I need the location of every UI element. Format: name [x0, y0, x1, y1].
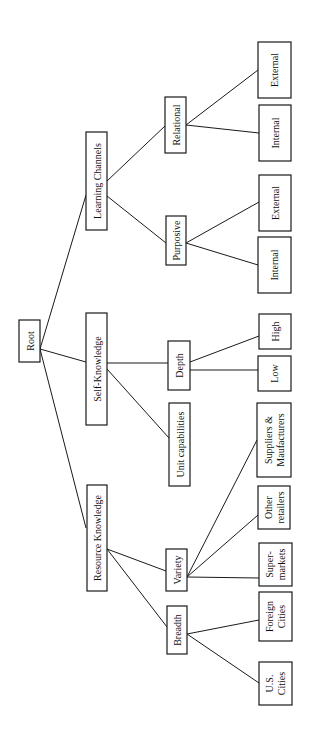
node-label: Internal	[269, 249, 280, 280]
edge-purposive-external	[186, 202, 259, 243]
node-label-line-2: markets	[276, 549, 287, 581]
edge-learning-channels-relational	[107, 126, 165, 181]
node-depth: Depth	[168, 341, 190, 390]
node-relational-external: External	[258, 42, 291, 98]
edge-root-learning-channels	[40, 195, 86, 349]
node-label: Low	[269, 364, 280, 383]
edge-depth-high	[190, 336, 259, 362]
edge-root-resource-knowledge	[40, 349, 86, 528]
node-other-retailers: Other retailers	[258, 486, 290, 529]
node-label: High	[270, 322, 281, 342]
node-learning-channels: Learning Channels	[86, 132, 107, 230]
edge-relational-external	[186, 70, 258, 125]
node-label-line-2: Cities	[276, 672, 287, 695]
node-label-line-1: U.S.	[264, 675, 275, 693]
node-supermarkets: Super- markets	[259, 543, 292, 586]
edge-breadth-us-cities	[187, 634, 259, 683]
edge-relational-internal	[186, 125, 259, 133]
edge-purposive-internal	[186, 243, 258, 265]
edge-variety-supermarkets	[187, 577, 259, 578]
node-self-knowledge: Self-Knowledge	[86, 313, 107, 425]
node-root: Root	[19, 320, 40, 362]
node-label-line-2: Maufacturers	[275, 413, 286, 466]
node-label-line-1: Foreign	[264, 601, 275, 632]
edge-self-knowledge-unit-capabilities	[107, 369, 169, 438]
node-us-cities: U.S. Cities	[259, 662, 292, 705]
node-label: Internal	[270, 117, 281, 148]
node-variety: Variety	[166, 549, 187, 591]
node-depth-low: Low	[258, 356, 291, 391]
node-label: External	[269, 53, 280, 87]
node-relational: Relational	[165, 97, 186, 153]
node-label-line-1: Suppliers &	[263, 416, 274, 464]
node-label-line-1: Other	[263, 495, 274, 518]
node-purposive-internal: Internal	[258, 237, 291, 293]
edge-variety-suppliers	[187, 440, 257, 577]
node-label-line-2: retailers	[275, 491, 286, 523]
node-label: Relational	[171, 104, 182, 145]
edge-variety-other-retailers	[187, 515, 258, 577]
node-label-line-2: Cities	[276, 605, 287, 628]
edges	[40, 70, 259, 683]
node-label: Breadth	[172, 614, 183, 646]
node-label: Resource Knowledge	[92, 495, 103, 581]
node-label: Self-Knowledge	[92, 336, 103, 402]
node-unit-capabilities: Unit capabilities	[169, 403, 190, 486]
node-breadth: Breadth	[167, 606, 187, 654]
node-label: Learning Channels	[92, 143, 103, 219]
node-suppliers-manufacturers: Suppliers & Maufacturers	[257, 403, 291, 477]
edge-root-self-knowledge	[40, 349, 86, 362]
node-purposive-external: External	[259, 175, 291, 231]
node-resource-knowledge: Resource Knowledge	[87, 485, 107, 591]
node-label: External	[270, 186, 281, 220]
node-relational-internal: Internal	[259, 105, 291, 161]
edge-breadth-foreign-cities	[187, 620, 259, 634]
node-label: Root	[25, 331, 36, 351]
node-label: Depth	[174, 353, 185, 377]
node-label: Variety	[172, 556, 183, 585]
node-label: Purposive	[171, 220, 182, 261]
tree-diagram: Root Learning Channels Self-Knowledge Re…	[0, 0, 315, 738]
node-label: Unit capabilities	[175, 411, 186, 477]
node-depth-high: High	[259, 314, 291, 349]
node-foreign-cities: Foreign Cities	[259, 592, 292, 641]
node-label-line-1: Super-	[264, 551, 275, 577]
node-purposive: Purposive	[166, 216, 186, 265]
edge-learning-channels-purposive	[107, 196, 166, 243]
